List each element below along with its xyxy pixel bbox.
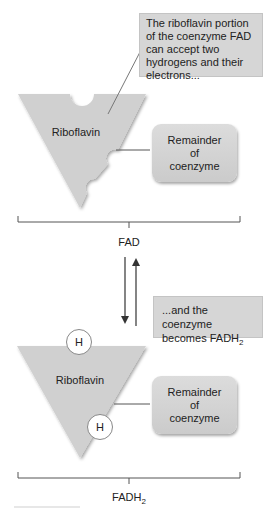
- hydrogen-atom-bottom: H: [87, 414, 113, 440]
- diagram-canvas: [0, 0, 271, 517]
- remainder-line-1: Remainder: [168, 386, 222, 399]
- top-riboflavin-label: Riboflavin: [46, 126, 106, 138]
- top-remainder-box: Remainder of coenzyme: [152, 124, 237, 182]
- bottom-riboflavin-label: Riboflavin: [50, 374, 110, 386]
- fadh2-label: FADH2: [89, 491, 169, 503]
- bottom-remainder-box: Remainder of coenzyme: [152, 376, 237, 434]
- remainder-line-2: of: [168, 147, 222, 160]
- top-callout: The riboflavin portion of the coenzyme F…: [139, 13, 263, 77]
- remainder-line-1: Remainder: [168, 134, 222, 147]
- remainder-line-2: of: [168, 399, 222, 412]
- top-callout-text: The riboflavin portion of the coenzyme F…: [146, 17, 251, 81]
- bottom-callout: ...and the coenzyme becomes FADH2: [153, 296, 263, 338]
- riboflavin-shape-notched: [18, 94, 146, 208]
- bottom-callout-text: ...and the coenzyme becomes FADH: [162, 304, 239, 344]
- remainder-line-3: coenzyme: [168, 412, 222, 425]
- fad-label: FAD: [89, 236, 169, 248]
- remainder-line-3: coenzyme: [168, 160, 222, 173]
- hydrogen-atom-top: H: [66, 329, 92, 355]
- bottom-callout-sub: 2: [239, 338, 243, 347]
- riboflavin-shape-full: [17, 346, 146, 458]
